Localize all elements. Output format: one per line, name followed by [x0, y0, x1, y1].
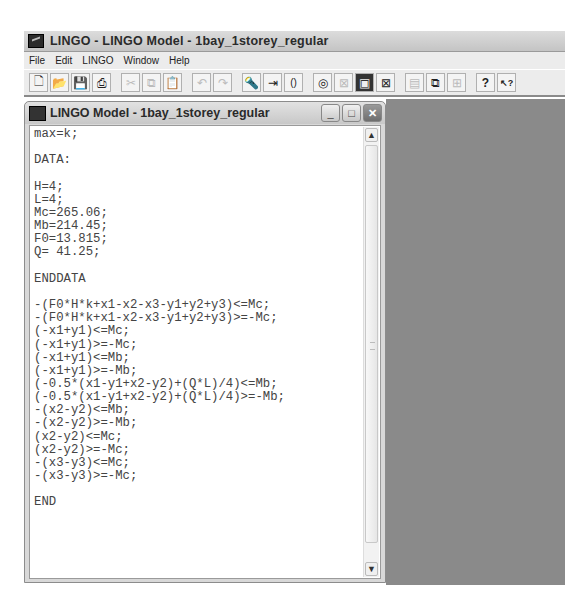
- menu-help[interactable]: Help: [164, 55, 195, 66]
- minimize-button[interactable]: _: [321, 104, 340, 122]
- solution-icon[interactable]: ⊠: [334, 73, 353, 92]
- code-line: -(x2-y2)<=Mb;: [34, 403, 130, 417]
- scroll-down-icon[interactable]: ▼: [365, 562, 378, 576]
- code-line: (x2-y2)>=-Mc;: [34, 443, 130, 457]
- maximize-button[interactable]: □: [342, 104, 361, 122]
- tile-icon[interactable]: ▤: [405, 73, 424, 92]
- code-line: -(x3-y3)>=-Mc;: [34, 469, 137, 483]
- arrange-icon[interactable]: ⊞: [447, 73, 466, 92]
- code-line: END: [34, 495, 56, 509]
- code-line: Mc=265.06;: [34, 206, 108, 220]
- model-window-title: LINGO Model - 1bay_1storey_regular: [50, 106, 270, 120]
- code-line: Q= 41.25;: [34, 245, 100, 259]
- menu-window[interactable]: Window: [118, 55, 164, 66]
- menu-bar: File Edit LINGO Window Help: [24, 52, 565, 69]
- match-parenthesis-icon[interactable]: (): [284, 73, 303, 92]
- help-icon[interactable]: ?: [476, 73, 495, 92]
- lingo-app-window: LINGO - LINGO Model - 1bay_1storey_regul…: [24, 31, 565, 585]
- cut-icon[interactable]: ✂: [121, 73, 140, 92]
- code-line: (-x1+y1)>=-Mb;: [34, 364, 137, 378]
- new-icon[interactable]: 🗋: [29, 73, 48, 92]
- code-line: (-x1+y1)>=-Mc;: [34, 338, 137, 352]
- model-editor[interactable]: max=k; DATA: H=4; L=4; Mc=265.06; Mb=214…: [29, 125, 381, 579]
- save-icon[interactable]: 💾: [71, 73, 90, 92]
- menu-edit[interactable]: Edit: [50, 55, 77, 66]
- code-line: Mb=214.45;: [34, 219, 108, 233]
- code-line: (-0.5*(x1-y1+x2-y2)+(Q*L)/4)<=Mb;: [34, 377, 278, 391]
- close-all-icon[interactable]: ⊠: [376, 73, 395, 92]
- code-line: DATA:: [34, 153, 71, 167]
- code-line: -(F0*H*k+x1-x2-x3-y1+y2+y3)<=Mc;: [34, 298, 270, 312]
- context-help-icon[interactable]: ↖?: [497, 73, 516, 92]
- redo-icon[interactable]: ↷: [213, 73, 232, 92]
- close-button[interactable]: ✕: [363, 104, 382, 122]
- app-title-bar[interactable]: LINGO - LINGO Model - 1bay_1storey_regul…: [24, 31, 565, 52]
- model-code[interactable]: max=k; DATA: H=4; L=4; Mc=265.06; Mb=214…: [34, 128, 285, 510]
- code-line: (-x1+y1)<=Mc;: [34, 324, 130, 338]
- code-line: -(x2-y2)>=-Mb;: [34, 416, 137, 430]
- menu-file[interactable]: File: [24, 55, 50, 66]
- model-document-icon: [29, 106, 46, 121]
- toolbar: 🗋 📂 💾 ⎙ ✂ ⧉ 📋 ↶ ↷ 🔦 ⇥ () ◎ ⊠ ▣ ⊠ ▤ ⧉ ⊞ ?…: [24, 70, 565, 97]
- find-icon[interactable]: 🔦: [242, 73, 261, 92]
- copy-icon[interactable]: ⧉: [142, 73, 161, 92]
- goto-line-icon[interactable]: ⇥: [263, 73, 282, 92]
- code-line: -(x3-y3)<=Mc;: [34, 456, 130, 470]
- options-icon[interactable]: ▣: [355, 73, 374, 92]
- undo-icon[interactable]: ↶: [192, 73, 211, 92]
- code-line: F0=13.815;: [34, 232, 108, 246]
- mdi-background: [386, 99, 565, 585]
- code-line: (-x1+y1)<=Mb;: [34, 351, 130, 365]
- model-window: LINGO Model - 1bay_1storey_regular _ □ ✕…: [24, 101, 386, 583]
- code-line: -(F0*H*k+x1-x2-x3-y1+y2+y3)>=-Mc;: [34, 311, 278, 325]
- code-line: L=4;: [34, 193, 64, 207]
- code-line: max=k;: [34, 127, 78, 141]
- app-title: LINGO - LINGO Model - 1bay_1storey_regul…: [50, 34, 329, 48]
- scroll-up-icon[interactable]: ▲: [365, 128, 378, 142]
- scrollbar-thumb[interactable]: [365, 145, 378, 543]
- code-line: (x2-y2)<=Mc;: [34, 430, 123, 444]
- menu-lingo[interactable]: LINGO: [77, 55, 118, 66]
- code-line: H=4;: [34, 180, 64, 194]
- lingo-app-icon: [28, 34, 44, 48]
- model-window-title-bar[interactable]: LINGO Model - 1bay_1storey_regular _ □ ✕: [25, 102, 385, 124]
- code-line: ENDDATA: [34, 272, 86, 286]
- code-line: (-0.5*(x1-y1+x2-y2)+(Q*L)/4)>=-Mb;: [34, 390, 285, 404]
- open-icon[interactable]: 📂: [50, 73, 69, 92]
- mdi-client-area: LINGO Model - 1bay_1storey_regular _ □ ✕…: [24, 99, 565, 585]
- print-icon[interactable]: ⎙: [92, 73, 111, 92]
- paste-icon[interactable]: 📋: [163, 73, 182, 92]
- cascade-icon[interactable]: ⧉: [426, 73, 445, 92]
- solve-icon[interactable]: ◎: [313, 73, 332, 92]
- vertical-scrollbar[interactable]: ▲ ▼: [363, 127, 379, 577]
